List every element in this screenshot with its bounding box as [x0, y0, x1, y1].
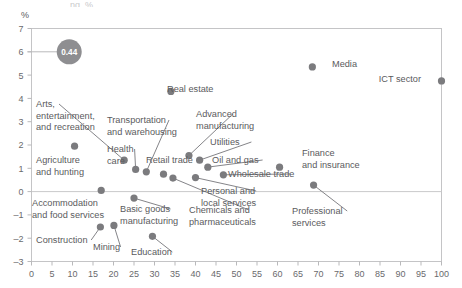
x-tick-label: 65	[293, 269, 303, 279]
x-tick-label: 75	[334, 269, 344, 279]
data-point[interactable]	[98, 187, 105, 194]
data-point[interactable]	[143, 168, 150, 175]
x-tick-label: 15	[88, 269, 98, 279]
data-point[interactable]	[204, 164, 211, 171]
x-tick-label: 95	[416, 269, 426, 279]
x-tick-label: 10	[67, 269, 77, 279]
point-label: Media	[332, 59, 358, 69]
data-point[interactable]	[130, 195, 137, 202]
x-tick-label: 80	[354, 269, 364, 279]
point-label: Real estate	[167, 84, 213, 94]
data-point[interactable]	[196, 157, 203, 164]
data-point[interactable]	[149, 233, 156, 240]
data-point[interactable]	[192, 174, 199, 181]
data-point[interactable]	[438, 77, 445, 84]
data-point[interactable]	[169, 174, 176, 181]
point-label: Construction	[36, 235, 88, 245]
y-tick-label: 1	[18, 164, 23, 174]
y-tick-label: 7	[18, 24, 23, 34]
x-tick-label: 45	[211, 269, 221, 279]
x-tick-label: 100	[434, 269, 449, 279]
point-label: ICT sector	[379, 74, 421, 84]
x-tick-label: 30	[149, 269, 159, 279]
bubble-legend-value: 0.44	[61, 48, 77, 57]
data-point[interactable]	[160, 171, 167, 178]
x-axis-ticks: 0510152025303540455055606570758085909510…	[29, 262, 449, 279]
chart-canvas: –3–2–101234567 0510152025303540455055606…	[0, 0, 462, 288]
point-label: Arts,entertainment,and recreation	[36, 99, 95, 132]
data-point[interactable]	[309, 63, 316, 70]
data-point[interactable]	[220, 171, 227, 178]
x-tick-label: 0	[29, 269, 34, 279]
y-tick-label: 6	[18, 47, 23, 57]
point-label: Retail trade	[146, 155, 193, 165]
x-tick-label: 25	[129, 269, 139, 279]
point-labels: MediaICT sectorReal estateArts,entertain…	[32, 59, 421, 257]
point-label: Mining	[93, 242, 120, 252]
point-label: Financeand insurance	[302, 148, 360, 170]
point-label: Accommodationand food services	[32, 198, 104, 220]
bubble-size-legend: 0.44	[28, 39, 82, 64]
data-point[interactable]	[97, 223, 104, 230]
point-label: Education	[131, 247, 172, 257]
x-tick-label: 55	[252, 269, 262, 279]
y-axis-ticks: –3–2–101234567	[13, 24, 31, 267]
point-label: Wholesale trade	[228, 169, 294, 179]
data-point[interactable]	[71, 143, 78, 150]
scatter-chart: ng, % % –3–2–101234567 05101520253035404…	[0, 0, 462, 288]
y-tick-label: 3	[18, 117, 23, 127]
x-tick-label: 60	[272, 269, 282, 279]
point-label: Utilities	[210, 137, 240, 147]
x-tick-label: 5	[49, 269, 54, 279]
y-tick-label: 2	[18, 140, 23, 150]
x-tick-label: 50	[231, 269, 241, 279]
x-tick-label: 85	[375, 269, 385, 279]
x-tick-label: 35	[170, 269, 180, 279]
y-tick-label: –3	[13, 257, 23, 267]
point-label: Healthcare	[107, 144, 134, 166]
y-tick-label: 4	[18, 94, 23, 104]
data-point[interactable]	[110, 222, 117, 229]
x-tick-label: 20	[108, 269, 118, 279]
y-tick-label: –1	[13, 210, 23, 220]
y-tick-label: 5	[18, 71, 23, 81]
point-label: Advancedmanufacturing	[196, 109, 254, 131]
data-point[interactable]	[310, 181, 317, 188]
point-label: Agricultureand hunting	[36, 155, 84, 177]
point-label: Professionalservices	[292, 206, 343, 228]
point-label: Chemicals andpharmaceuticals	[189, 205, 256, 227]
x-tick-label: 70	[313, 269, 323, 279]
y-tick-label: 0	[18, 187, 23, 197]
point-label: Oil and gas	[212, 155, 259, 165]
x-tick-label: 90	[395, 269, 405, 279]
point-label: Transportationand warehousing	[107, 115, 177, 137]
point-label: Basic goodsmanufacturing	[120, 204, 178, 226]
data-point[interactable]	[132, 166, 139, 173]
x-tick-label: 40	[190, 269, 200, 279]
y-tick-label: –2	[13, 234, 23, 244]
